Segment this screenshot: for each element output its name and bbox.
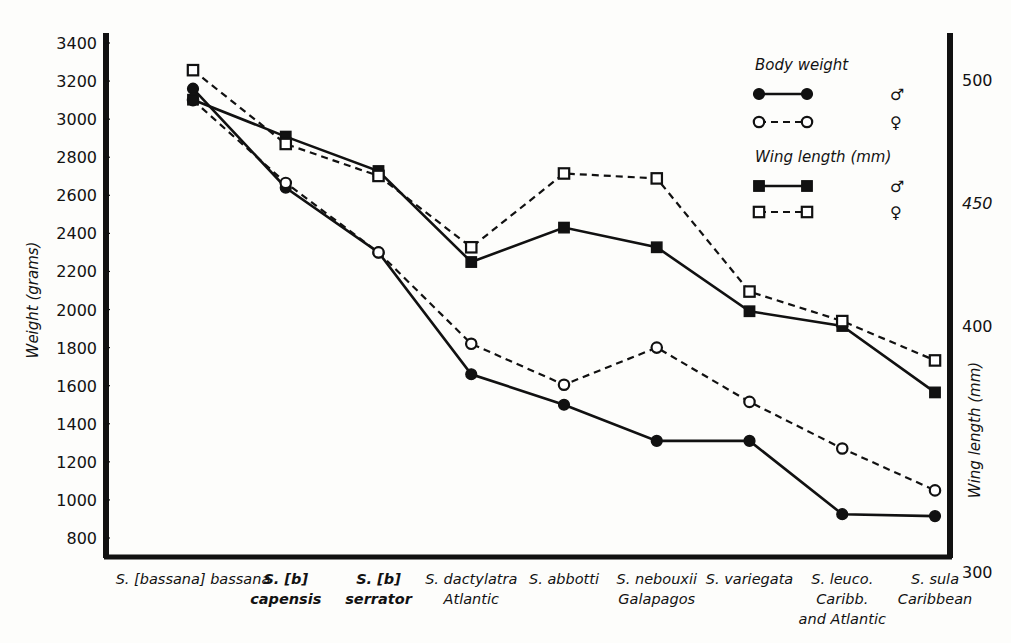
marker-open-square — [281, 139, 291, 149]
marker-filled-square — [802, 181, 812, 191]
left-tick-label: 1600 — [56, 377, 97, 396]
marker-filled-circle — [466, 369, 477, 380]
marker-open-square — [188, 65, 198, 75]
marker-filled-circle — [188, 83, 199, 94]
marker-open-circle — [754, 117, 764, 127]
marker-filled-square — [559, 222, 569, 232]
marker-filled-circle — [651, 436, 662, 447]
left-tick-label: 3200 — [56, 72, 97, 91]
left-axis-title: Weight (grams) — [24, 242, 42, 359]
series-line — [193, 70, 935, 360]
category-label: S. nebouxii — [617, 571, 697, 587]
category-label: S. variegata — [706, 571, 793, 587]
marker-open-square — [802, 207, 812, 217]
left-tick-label: 2000 — [56, 301, 97, 320]
marker-open-circle — [466, 339, 476, 349]
chart-legend: Body weight♂♀Wing length (mm)♂♀ — [754, 56, 905, 222]
category-label: serrator — [345, 591, 412, 607]
left-tick-label: 2200 — [56, 262, 97, 281]
right-tick-label: 450 — [962, 194, 993, 213]
plot-frame — [104, 33, 952, 558]
category-label: Caribbean — [898, 591, 972, 607]
category-label: S. sula — [911, 571, 959, 587]
marker-filled-circle — [754, 89, 765, 100]
category-label: and Atlantic — [799, 611, 886, 627]
marker-filled-circle — [837, 509, 848, 520]
legend-group-title-wing-length: Wing length (mm) — [755, 148, 891, 166]
left-tick-label: 2600 — [56, 186, 97, 205]
category-label: S. [b] — [356, 571, 401, 587]
category-label: capensis — [250, 591, 322, 607]
marker-open-circle — [281, 178, 291, 188]
marker-open-square — [466, 242, 476, 252]
marker-filled-square — [652, 242, 662, 252]
category-label: S. leuco. — [811, 571, 873, 587]
marker-open-square — [754, 207, 764, 217]
left-tick-label: 1400 — [56, 415, 97, 434]
left-tick-label: 2800 — [56, 148, 97, 167]
left-tick-label: 1800 — [56, 339, 97, 358]
left-tick-label: 1200 — [56, 453, 97, 472]
category-label: Atlantic — [443, 591, 499, 607]
legend-row — [754, 181, 812, 191]
legend-row — [754, 89, 813, 100]
marker-filled-square — [744, 306, 754, 316]
left-tick-label: 800 — [66, 529, 97, 548]
category-labels: S. [bassana] bassanaS. [b]capensisS. [b]… — [116, 571, 973, 627]
right-tick-label: 500 — [962, 71, 993, 90]
right-tick-label: 300 — [962, 563, 993, 582]
right-axis-ticks: 300400450500 — [962, 71, 993, 582]
marker-filled-circle — [930, 511, 941, 522]
category-label: S. abbotti — [529, 571, 599, 587]
category-label: Galapagos — [618, 591, 695, 607]
marker-open-square — [559, 168, 569, 178]
data-series-layer — [188, 65, 941, 522]
right-tick-label: 400 — [962, 317, 993, 336]
legend-row — [754, 207, 812, 217]
chart-figure: 8001000120014001600180020002200240026002… — [0, 0, 1011, 643]
series-line — [193, 100, 935, 393]
marker-open-circle — [744, 397, 754, 407]
legend-female-symbol: ♀ — [890, 203, 902, 222]
series-3 — [188, 65, 940, 366]
left-axis-ticks: 8001000120014001600180020002200240026002… — [56, 34, 110, 548]
marker-open-circle — [559, 380, 569, 390]
marker-open-square — [930, 355, 940, 365]
category-label: S. dactylatra — [425, 571, 517, 587]
marker-filled-circle — [744, 436, 755, 447]
marker-filled-square — [754, 181, 764, 191]
category-label: S. [b] — [263, 571, 308, 587]
left-tick-label: 1000 — [56, 491, 97, 510]
marker-filled-square — [466, 257, 476, 267]
marker-open-circle — [837, 443, 847, 453]
marker-open-square — [373, 171, 383, 181]
legend-row — [754, 117, 812, 127]
legend-group-title-body-weight: Body weight — [755, 56, 849, 74]
marker-open-square — [837, 316, 847, 326]
marker-open-circle — [930, 485, 940, 495]
right-axis-title: Wing length (mm) — [966, 362, 984, 498]
series-2 — [188, 94, 940, 397]
marker-open-circle — [373, 247, 383, 257]
marker-filled-circle — [802, 89, 813, 100]
marker-open-circle — [652, 342, 662, 352]
marker-filled-circle — [559, 399, 570, 410]
left-tick-label: 2400 — [56, 224, 97, 243]
marker-open-square — [652, 173, 662, 183]
marker-filled-square — [188, 94, 198, 104]
marker-filled-square — [930, 387, 940, 397]
legend-male-symbol: ♂ — [890, 85, 904, 104]
category-label: Caribb. — [816, 591, 868, 607]
marker-open-square — [744, 286, 754, 296]
marker-open-circle — [802, 117, 812, 127]
legend-male-symbol: ♂ — [890, 177, 904, 196]
left-tick-label: 3000 — [56, 110, 97, 129]
legend-female-symbol: ♀ — [890, 113, 902, 132]
category-label: S. [bassana] bassana — [116, 571, 271, 587]
left-tick-label: 3400 — [56, 34, 97, 53]
